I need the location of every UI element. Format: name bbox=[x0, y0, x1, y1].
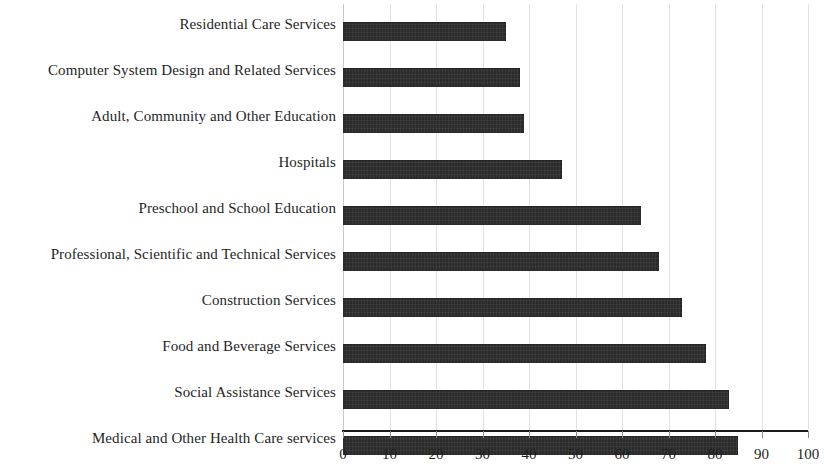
x-axis-tick bbox=[390, 431, 391, 438]
x-axis-tick-label: 100 bbox=[778, 444, 824, 464]
x-axis-tick bbox=[483, 431, 484, 438]
bar bbox=[343, 114, 524, 133]
x-axis-tick bbox=[436, 431, 437, 438]
bar bbox=[343, 344, 706, 363]
bar bbox=[343, 68, 520, 87]
bar-row bbox=[343, 57, 808, 103]
category-axis-labels: Residential Care ServicesComputer System… bbox=[0, 4, 336, 431]
category-label: Preschool and School Education bbox=[0, 199, 336, 218]
bar bbox=[343, 206, 641, 225]
bar-row bbox=[343, 379, 808, 425]
bar-row bbox=[343, 11, 808, 57]
bar-row bbox=[343, 149, 808, 195]
category-label: Hospitals bbox=[0, 153, 336, 172]
bar-row bbox=[343, 103, 808, 149]
bar bbox=[343, 298, 682, 317]
category-label: Residential Care Services bbox=[0, 15, 336, 34]
category-label: Medical and Other Health Care services bbox=[0, 429, 336, 448]
gridline-100 bbox=[808, 4, 809, 431]
category-label: Construction Services bbox=[0, 291, 336, 310]
bar bbox=[343, 160, 562, 179]
bar bbox=[343, 390, 729, 409]
x-axis-tick bbox=[715, 431, 716, 438]
x-axis-tick bbox=[576, 431, 577, 438]
x-axis-tick bbox=[622, 431, 623, 438]
category-label: Computer System Design and Related Servi… bbox=[0, 61, 336, 80]
bar-row bbox=[343, 241, 808, 287]
bar-series bbox=[343, 4, 808, 431]
bar bbox=[343, 252, 659, 271]
plot-area bbox=[343, 4, 808, 431]
bar-row bbox=[343, 333, 808, 379]
bar bbox=[343, 22, 506, 41]
category-label: Professional, Scientific and Technical S… bbox=[0, 245, 336, 264]
x-axis-tick bbox=[343, 431, 344, 438]
bar-row bbox=[343, 195, 808, 241]
x-axis-tick bbox=[529, 431, 530, 438]
x-axis-tick bbox=[808, 431, 809, 438]
x-axis-tick bbox=[669, 431, 670, 438]
x-axis-tick bbox=[762, 431, 763, 438]
category-label: Adult, Community and Other Education bbox=[0, 107, 336, 126]
category-label: Social Assistance Services bbox=[0, 383, 336, 402]
bar-row bbox=[343, 287, 808, 333]
category-label: Food and Beverage Services bbox=[0, 337, 336, 356]
